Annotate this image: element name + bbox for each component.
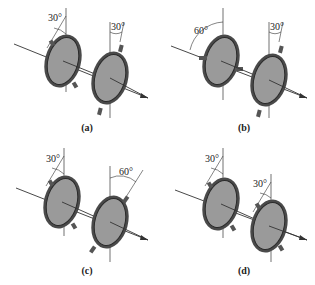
caption-a: (a)	[67, 122, 107, 133]
polarizer-pair-diagram-c: 30° 60°	[0, 142, 157, 284]
angle-label-1: 30°	[48, 12, 62, 23]
polarizer-pair-diagram-b: 60° 30°	[157, 0, 314, 142]
polarizer-pair-diagram-d: 30° 30°	[157, 142, 314, 284]
polarizer-pair-diagram-a: 30° 30°	[0, 0, 157, 142]
angle-label-1: 30°	[46, 153, 60, 164]
panel-d: 30° 30° (d)	[157, 142, 314, 284]
panel-b: 60° 30° (b)	[157, 0, 314, 142]
panel-c: 30° 60° (c)	[0, 142, 157, 284]
angle-label-1: 60°	[194, 25, 208, 36]
angle-label-2: 30°	[270, 21, 284, 32]
angle-label-2: 60°	[119, 166, 133, 177]
panel-a: 30° 30° (a)	[0, 0, 157, 142]
angle-label-1: 30°	[205, 153, 219, 164]
angle-label-2: 30°	[253, 178, 267, 189]
caption-c: (c)	[67, 265, 107, 276]
angle-label-2: 30°	[111, 21, 125, 32]
caption-d: (d)	[224, 265, 264, 276]
caption-b: (b)	[224, 122, 264, 133]
